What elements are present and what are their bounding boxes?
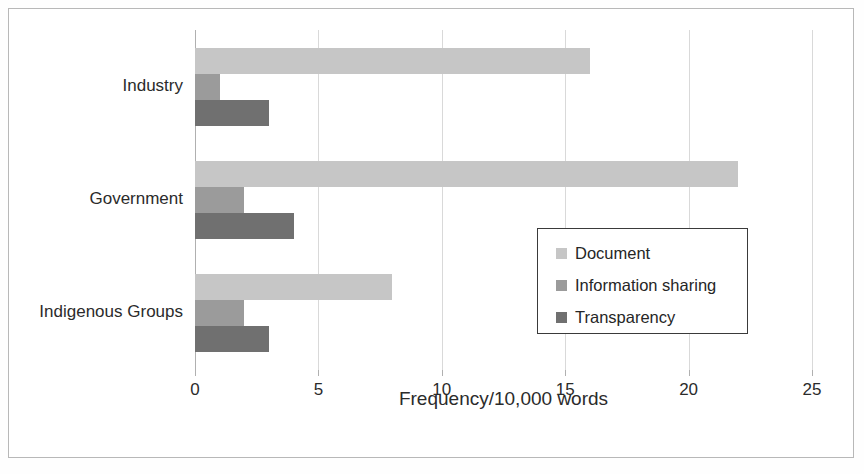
bar: [195, 274, 392, 300]
x-axis-title: Frequency/10,000 words: [195, 388, 812, 410]
tick-mark-5: [318, 370, 319, 376]
y-axis-category-label: Industry: [0, 76, 183, 96]
legend-label: Transparency: [575, 308, 675, 327]
legend-label: Information sharing: [575, 276, 716, 295]
legend-item: Information sharing: [556, 275, 716, 295]
bar: [195, 326, 269, 352]
bar: [195, 161, 738, 187]
tick-mark-25: [812, 370, 813, 376]
chart-figure: IndustryGovernmentIndigenous Groups 0510…: [0, 0, 864, 474]
tick-mark-0: [195, 370, 196, 376]
legend: DocumentInformation sharingTransparency: [537, 228, 748, 334]
legend-item: Document: [556, 243, 650, 263]
bar: [195, 300, 244, 326]
y-axis-category-labels: IndustryGovernmentIndigenous Groups: [0, 30, 183, 370]
legend-item: Transparency: [556, 307, 675, 327]
legend-swatch-icon: [556, 248, 567, 259]
tick-mark-20: [689, 370, 690, 376]
bar-group: [195, 48, 812, 126]
bar: [195, 213, 294, 239]
legend-label: Document: [575, 244, 650, 263]
y-axis-category-label: Government: [0, 189, 183, 209]
legend-swatch-icon: [556, 312, 567, 323]
bar: [195, 74, 220, 100]
legend-swatch-icon: [556, 280, 567, 291]
y-axis-category-label: Indigenous Groups: [0, 302, 183, 322]
gridline-25: [812, 30, 813, 370]
bar: [195, 100, 269, 126]
bar: [195, 48, 590, 74]
bar: [195, 187, 244, 213]
tick-mark-15: [565, 370, 566, 376]
tick-mark-10: [442, 370, 443, 376]
